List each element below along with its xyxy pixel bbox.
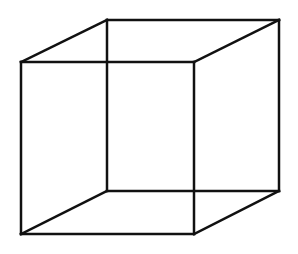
cube-edge-front-top-left-to-back-top-left: [21, 20, 107, 62]
necker-cube-diagram: [0, 0, 298, 254]
cube-edge-front-bottom-left-to-back-bottom-left: [21, 191, 107, 234]
cube-edge-front-top-right-to-back-top-right: [194, 20, 279, 62]
diagram-canvas: [0, 0, 298, 254]
cube-edges: [21, 20, 279, 234]
cube-edge-front-bottom-right-to-back-bottom-right: [194, 191, 279, 234]
